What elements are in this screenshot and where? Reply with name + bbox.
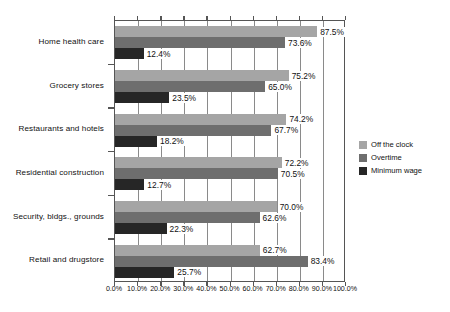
x-axis-tick-label: 70.0% [266,285,286,293]
y-axis-tick [108,107,114,108]
chart-legend: Off the clockOvertimeMinimum wage [359,139,447,178]
bar-0 [115,157,282,168]
gridline [300,21,301,281]
x-axis-tick-label: 90.0% [312,285,332,293]
plot-area: 87.5%73.6%12.4%75.2%65.0%23.5%74.2%67.7%… [114,20,345,282]
x-axis-tick [276,16,277,20]
category-label: Home health care [39,37,104,46]
y-axis-tick [108,238,114,239]
bar-value-label: 83.4% [310,256,336,266]
bar-value-label: 70.5% [280,169,306,179]
bar-2 [115,267,174,278]
bar-1 [115,212,260,223]
bar-value-label: 65.0% [267,82,293,92]
bar-0 [115,114,286,125]
y-axis-tick [108,195,114,196]
bar-1 [115,125,271,136]
bar-value-label: 25.7% [176,267,202,277]
gridline [254,21,255,281]
bar-value-label: 62.7% [262,245,288,255]
x-axis-tick-label: 80.0% [289,285,309,293]
bar-2 [115,179,144,190]
x-axis-tick [137,16,138,20]
bar-value-label: 72.2% [284,158,310,168]
category-axis: Home health careGrocery storesRestaurant… [0,20,110,282]
x-axis-tick [345,16,346,20]
category-label: Restaurants and hotels [19,124,104,133]
bar-2 [115,223,167,234]
bar-value-label: 62.6% [262,213,288,223]
x-axis-tick [253,16,254,20]
legend-swatch-icon [359,154,367,162]
x-axis-tick-label: 60.0% [243,285,263,293]
bar-1 [115,256,308,267]
bar-value-label: 12.4% [146,49,172,59]
x-axis-tick [299,16,300,20]
x-axis-tick-label: 30.0% [173,285,193,293]
bar-0 [115,70,289,81]
x-axis-tick [160,16,161,20]
category-label: Security, bldgs., grounds [13,212,104,221]
gridline [138,21,139,281]
x-axis-tick [322,16,323,20]
x-axis-tick-label: 20.0% [150,285,170,293]
bar-2 [115,48,144,59]
bar-0 [115,26,317,37]
legend-swatch-icon [359,167,367,175]
x-axis-tick [114,16,115,20]
gridline [231,21,232,281]
category-label: Residential construction [16,168,104,177]
bar-value-label: 70.0% [279,202,305,212]
gridline [161,21,162,281]
bar-value-label: 22.3% [169,224,195,234]
bar-value-label: 12.7% [146,180,172,190]
legend-item: Off the clock [359,139,447,150]
legend-item: Minimum wage [359,165,447,176]
legend-label: Off the clock [371,140,413,149]
legend-swatch-icon [359,141,367,149]
bar-value-label: 87.5% [319,27,345,37]
bar-value-label: 75.2% [291,71,317,81]
x-axis-tick [230,16,231,20]
x-axis-tick [206,16,207,20]
bar-value-label: 67.7% [273,125,299,135]
category-label: Retail and drugstore [29,255,104,264]
bar-value-label: 23.5% [171,93,197,103]
bar-value-label: 18.2% [159,136,185,146]
legend-label: Overtime [371,153,402,162]
bar-1 [115,81,265,92]
bar-0 [115,245,260,256]
gridline [207,21,208,281]
gridline [323,21,324,281]
legend-item: Overtime [359,152,447,163]
gridline [184,21,185,281]
bar-0 [115,201,277,212]
bar-1 [115,37,285,48]
bar-chart: Home health careGrocery storesRestaurant… [0,0,450,312]
bar-1 [115,168,278,179]
x-axis-tick-label: 100.0% [333,285,357,293]
x-axis-tick-label: 40.0% [196,285,216,293]
y-axis-tick [108,151,114,152]
bar-2 [115,136,157,147]
x-axis-tick-label: 10.0% [127,285,147,293]
y-axis-tick [108,64,114,65]
gridline [277,21,278,281]
category-label: Grocery stores [50,81,104,90]
x-axis-tick-label: 0.0% [106,285,122,293]
x-axis-tick [183,16,184,20]
x-axis-tick-label: 50.0% [219,285,239,293]
legend-label: Minimum wage [371,166,422,175]
bar-2 [115,92,169,103]
bar-value-label: 73.6% [287,38,313,48]
bar-value-label: 74.2% [288,114,314,124]
